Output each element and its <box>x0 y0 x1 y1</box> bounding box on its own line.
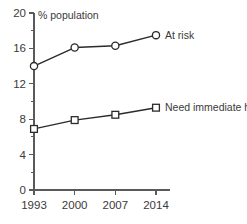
y-tick-label: 16 <box>13 42 26 54</box>
x-tick-label: 2000 <box>62 199 88 211</box>
data-point-square <box>71 117 78 124</box>
x-tick-label: 1993 <box>21 199 47 211</box>
series-line-square <box>34 108 156 129</box>
y-tick-label: 0 <box>20 184 26 196</box>
data-point-square <box>112 111 119 118</box>
x-tick-label: 2014 <box>143 199 169 211</box>
y-axis-title: % population <box>38 9 99 21</box>
data-point-square <box>31 126 38 133</box>
data-point-circle <box>71 44 78 51</box>
series-label: Need immediate help <box>165 101 247 113</box>
chart-container: 048121620 1993200020072014 At riskNeed i… <box>0 0 247 224</box>
data-point-circle <box>30 63 37 70</box>
x-tick-label: 2007 <box>103 199 129 211</box>
y-tick-label: 12 <box>13 78 26 90</box>
series-line-circle <box>34 35 156 66</box>
series-labels: At riskNeed immediate help <box>165 29 247 114</box>
series-layer <box>30 32 159 133</box>
line-chart: 048121620 1993200020072014 At riskNeed i… <box>0 0 247 224</box>
y-axis-tick-labels: 048121620 <box>13 7 26 196</box>
y-tick-label: 8 <box>20 113 26 125</box>
y-tick-label: 20 <box>13 7 26 19</box>
y-tick-label: 4 <box>20 149 27 161</box>
data-point-square <box>153 104 160 111</box>
data-point-circle <box>112 42 119 49</box>
data-point-circle <box>152 32 159 39</box>
y-axis-ticks <box>29 13 34 190</box>
series-label: At risk <box>165 29 195 41</box>
x-axis-ticks <box>34 190 156 195</box>
x-axis-tick-labels: 1993200020072014 <box>21 199 169 211</box>
